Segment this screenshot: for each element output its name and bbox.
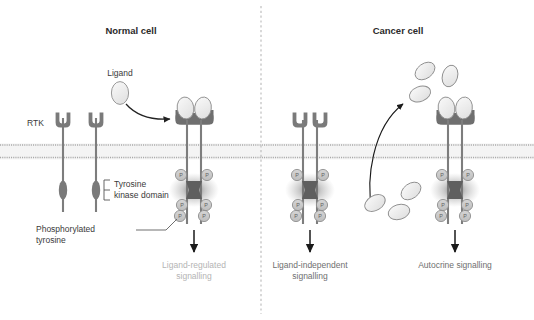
rtk-signalling-diagram: Normal cell Cancer cell RTK Tyrosine kin… (0, 0, 534, 320)
canvas-background (0, 0, 534, 320)
phosphate-glyph: P (463, 213, 467, 219)
phosphate-glyph: P (204, 202, 208, 208)
phosphorylated-tyrosine-label-line2: tyrosine (36, 235, 66, 245)
phosphate-glyph: P (441, 202, 445, 208)
signalling-label-normal-line1: Ligand-regulated (162, 260, 226, 270)
plasma-membrane (0, 144, 534, 160)
rtk-label: RTK (27, 118, 44, 128)
phosphate-glyph: P (321, 172, 325, 178)
tyrosine-kinase-domain-label-line2: kinase domain (114, 190, 169, 200)
panel-title-cancer: Cancer cell (373, 25, 424, 36)
signalling-label-normal-line2: signalling (176, 271, 212, 281)
tyrosine-kinase-domain-oval (92, 181, 100, 200)
ligand-label: Ligand (107, 68, 133, 78)
phosphorylated-tyrosine-label-line1: Phosphorylated (36, 224, 95, 234)
signalling-label-ligand-independent-line1: Ligand-independent (272, 260, 348, 270)
phosphate-glyph: P (320, 202, 324, 208)
tyrosine-kinase-domain-label-line1: Tyrosine (114, 179, 146, 189)
phosphate-glyph: P (465, 202, 469, 208)
panel-title-normal: Normal cell (105, 25, 156, 36)
diagram-stage: Normal cell Cancer cell RTK Tyrosine kin… (0, 0, 534, 320)
phosphate-glyph: P (296, 202, 300, 208)
phosphate-glyph: P (466, 172, 470, 178)
phosphate-glyph: P (179, 172, 183, 178)
ligand-oval (111, 82, 128, 105)
signalling-label-autocrine: Autocrine signalling (418, 260, 492, 270)
tyrosine-kinase-domain-oval (59, 181, 67, 200)
phosphate-glyph: P (318, 213, 322, 219)
phosphate-glyph: P (178, 213, 182, 219)
phosphate-glyph: P (205, 172, 209, 178)
phosphate-glyph: P (180, 202, 184, 208)
phosphate-glyph: P (294, 213, 298, 219)
phosphate-glyph: P (439, 213, 443, 219)
phosphate-glyph: P (440, 172, 444, 178)
signalling-label-ligand-independent-line2: signalling (292, 271, 328, 281)
phosphate-glyph: P (202, 213, 206, 219)
phosphate-glyph: P (295, 172, 299, 178)
